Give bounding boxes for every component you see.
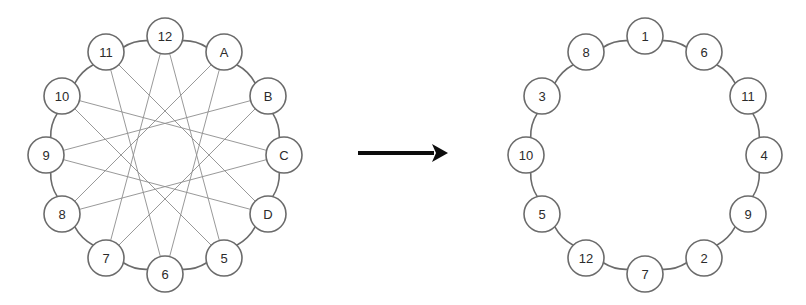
right-ring-edge-9-to-2 bbox=[717, 227, 736, 246]
left-node-label-5: 5 bbox=[220, 251, 227, 266]
left-node-8[interactable]: 8 bbox=[44, 196, 80, 232]
right-node-label-9: 9 bbox=[744, 207, 751, 222]
left-node-7[interactable]: 7 bbox=[88, 240, 124, 276]
right-ring-edge-11-to-4 bbox=[753, 113, 760, 137]
left-node-label-B: B bbox=[264, 89, 273, 104]
left-ring-edge-12-to-A bbox=[182, 41, 206, 48]
left-ring-edge-C-to-D bbox=[273, 172, 280, 196]
right-node-4[interactable]: 4 bbox=[746, 137, 782, 173]
right-node-8[interactable]: 8 bbox=[568, 34, 604, 70]
right-ring-edge-7-to-12 bbox=[603, 263, 627, 270]
left-node-label-7: 7 bbox=[102, 251, 109, 266]
left-node-label-D: D bbox=[263, 207, 272, 222]
right-node-label-5: 5 bbox=[538, 207, 545, 222]
left-ring-edge-A-to-B bbox=[237, 65, 256, 84]
left-node-label-8: 8 bbox=[58, 207, 65, 222]
left-node-5[interactable]: 5 bbox=[206, 240, 242, 276]
right-node-label-6: 6 bbox=[700, 45, 707, 60]
transformation-arrow bbox=[358, 144, 448, 162]
left-ring-edge-group bbox=[51, 41, 280, 270]
left-node-label-6: 6 bbox=[161, 267, 168, 282]
left-node-label-9: 9 bbox=[42, 148, 49, 163]
left-node-label-10: 10 bbox=[55, 89, 69, 104]
right-node-10[interactable]: 10 bbox=[508, 137, 544, 173]
left-chord-group bbox=[63, 53, 266, 256]
left-node-C[interactable]: C bbox=[266, 137, 302, 173]
left-node-6[interactable]: 6 bbox=[147, 256, 183, 292]
right-node-11[interactable]: 11 bbox=[730, 78, 766, 114]
left-ring-edge-5-to-6 bbox=[182, 263, 206, 270]
right-ring-edge-8-to-1 bbox=[603, 41, 627, 48]
left-node-9[interactable]: 9 bbox=[28, 137, 64, 173]
left-node-12[interactable]: 12 bbox=[147, 18, 183, 54]
right-node-label-8: 8 bbox=[582, 45, 589, 60]
left-ring-edge-D-to-5 bbox=[237, 227, 256, 246]
right-node-7[interactable]: 7 bbox=[627, 256, 663, 292]
left-node-A[interactable]: A bbox=[206, 34, 242, 70]
left-node-10[interactable]: 10 bbox=[44, 78, 80, 114]
left-ring-edge-9-to-10 bbox=[51, 113, 58, 137]
right-ring-edge-6-to-11 bbox=[717, 65, 736, 84]
right-node-label-12: 12 bbox=[579, 251, 593, 266]
right-node-label-1: 1 bbox=[641, 29, 648, 44]
left-node-11[interactable]: 11 bbox=[88, 34, 124, 70]
right-node-6[interactable]: 6 bbox=[686, 34, 722, 70]
right-node-12[interactable]: 12 bbox=[568, 240, 604, 276]
right-ring-edge-4-to-9 bbox=[753, 172, 760, 196]
right-ring-edge-1-to-6 bbox=[662, 41, 686, 48]
left-ring-edge-6-to-7 bbox=[123, 263, 147, 270]
right-node-label-11: 11 bbox=[741, 89, 755, 104]
right-node-2[interactable]: 2 bbox=[686, 240, 722, 276]
right-node-label-2: 2 bbox=[700, 251, 707, 266]
right-ring-edge-5-to-10 bbox=[531, 172, 538, 196]
right-node-5[interactable]: 5 bbox=[524, 196, 560, 232]
right-node-label-7: 7 bbox=[641, 267, 648, 282]
left-node-D[interactable]: D bbox=[250, 196, 286, 232]
graph-transformation-figure: 12ABCD567891011 161149271251038 bbox=[0, 0, 806, 305]
left-node-label-A: A bbox=[220, 45, 229, 60]
right-ring-edge-2-to-7 bbox=[662, 263, 686, 270]
right-ring-edge-12-to-5 bbox=[555, 227, 574, 246]
left-ring-edge-8-to-9 bbox=[51, 172, 58, 196]
right-node-label-4: 4 bbox=[760, 148, 767, 163]
left-ring-edge-11-to-12 bbox=[123, 41, 147, 48]
right-node-group: 161149271251038 bbox=[508, 18, 782, 292]
right-ring-edge-10-to-3 bbox=[531, 113, 538, 137]
right-node-1[interactable]: 1 bbox=[627, 18, 663, 54]
right-node-3[interactable]: 3 bbox=[524, 78, 560, 114]
right-node-label-10: 10 bbox=[519, 148, 533, 163]
left-node-label-11: 11 bbox=[99, 45, 113, 60]
right-node-9[interactable]: 9 bbox=[730, 196, 766, 232]
left-node-label-12: 12 bbox=[158, 29, 172, 44]
right-ring-edge-group bbox=[531, 41, 760, 270]
left-ring-edge-10-to-11 bbox=[75, 65, 94, 84]
left-node-B[interactable]: B bbox=[250, 78, 286, 114]
left-node-group: 12ABCD567891011 bbox=[28, 18, 302, 292]
left-ring-edge-B-to-C bbox=[273, 113, 280, 137]
arrow-head-icon bbox=[432, 144, 448, 162]
left-ring-edge-7-to-8 bbox=[75, 227, 94, 246]
right-ring-edge-3-to-8 bbox=[555, 65, 574, 84]
right-node-label-3: 3 bbox=[538, 89, 545, 104]
left-node-label-C: C bbox=[279, 148, 288, 163]
